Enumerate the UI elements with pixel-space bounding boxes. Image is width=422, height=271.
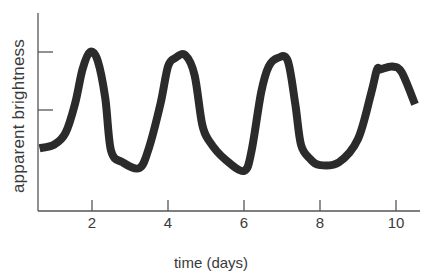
x-tick-label: 2 bbox=[88, 214, 96, 231]
x-tick-label: 10 bbox=[388, 214, 405, 231]
x-axis-label: time (days) bbox=[0, 254, 422, 271]
brightness-curve bbox=[40, 52, 415, 171]
x-tick-label: 6 bbox=[240, 214, 248, 231]
x-tick-label: 8 bbox=[316, 214, 324, 231]
y-ticks bbox=[38, 52, 53, 110]
x-ticks bbox=[92, 200, 396, 211]
x-tick-label: 4 bbox=[164, 214, 172, 231]
y-axis-label: apparent brightness bbox=[9, 21, 29, 211]
